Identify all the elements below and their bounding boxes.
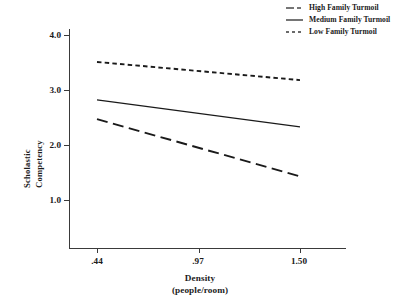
- x-tick-label: .97: [178, 256, 218, 266]
- x-tick-label: 1.50: [279, 256, 319, 266]
- series-line-high-family-turmoil: [97, 119, 300, 176]
- axis-lines: [69, 29, 346, 249]
- series-line-medium-family-turmoil: [97, 100, 300, 127]
- y-tick-label: 1.0: [33, 195, 61, 205]
- y-axis-title-line2: Competency: [34, 140, 44, 188]
- y-axis-title: Scholastic Competency: [8, 104, 48, 188]
- y-axis-ticks: [64, 36, 70, 201]
- x-axis-title-line1: Density: [125, 272, 275, 284]
- y-axis-title-line1: Scholastic: [22, 149, 32, 188]
- chart-figure: High Family Turmoil Medium Family Turmoi…: [0, 0, 420, 305]
- y-tick-label: 4.0: [33, 30, 61, 40]
- data-series-lines: [97, 62, 300, 176]
- x-axis-title-line2: (people/room): [125, 284, 275, 296]
- x-tick-label: .44: [77, 256, 117, 266]
- y-tick-label: 3.0: [33, 85, 61, 95]
- x-axis-ticks: [98, 249, 301, 254]
- series-line-low-family-turmoil: [97, 62, 300, 80]
- x-axis-title: Density (people/room): [125, 272, 275, 296]
